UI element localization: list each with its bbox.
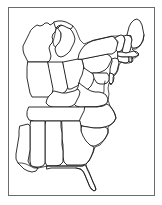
state-maryland bbox=[93, 73, 109, 84]
state-connecticut bbox=[118, 56, 129, 63]
state-florida bbox=[47, 165, 96, 191]
state-alabama bbox=[45, 121, 63, 166]
state-north-carolina bbox=[79, 104, 116, 128]
state-mississippi bbox=[30, 121, 45, 167]
eastern-us-outline-map bbox=[0, 0, 162, 205]
map-figure bbox=[0, 0, 162, 205]
map-landmass-group bbox=[16, 19, 144, 191]
